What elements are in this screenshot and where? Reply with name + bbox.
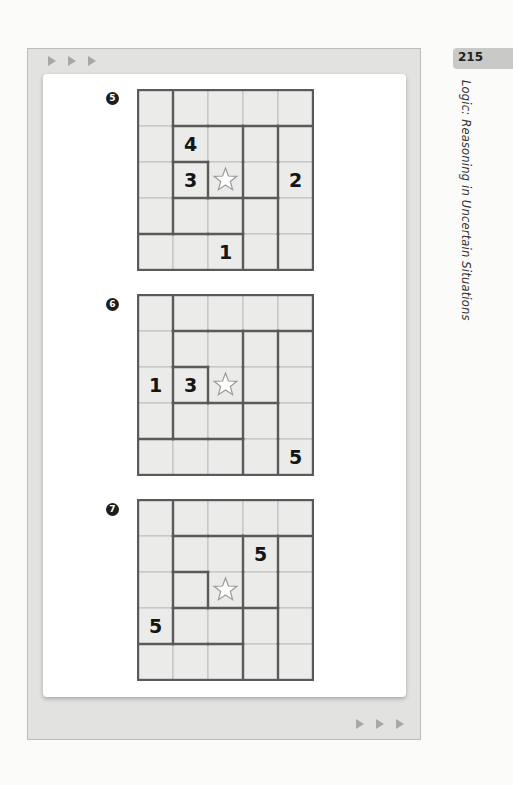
puzzle-number-badge: 7	[106, 503, 119, 516]
grid-cell[interactable]	[138, 90, 173, 126]
grid-cell[interactable]	[173, 234, 208, 270]
grid-cell[interactable]	[173, 403, 208, 439]
grid-cell[interactable]	[278, 403, 313, 439]
clue-number: 5	[149, 615, 162, 637]
grid-cell[interactable]	[208, 331, 243, 367]
grid-cell[interactable]	[243, 295, 278, 331]
grid-cell[interactable]	[243, 234, 278, 270]
grid-cell[interactable]	[278, 608, 313, 644]
grid-cell[interactable]	[243, 403, 278, 439]
grid-cell[interactable]	[243, 608, 278, 644]
arrow-right-icon	[376, 719, 384, 729]
grid-svg: 55	[137, 499, 314, 681]
grid-cell[interactable]	[243, 572, 278, 608]
bottom-arrows	[356, 719, 404, 729]
page-number: 215	[458, 50, 483, 64]
top-arrows	[48, 56, 96, 66]
grid-cell[interactable]	[138, 234, 173, 270]
grid-cell[interactable]	[138, 162, 173, 198]
grid-cell[interactable]	[173, 536, 208, 572]
grid-cell[interactable]	[138, 439, 173, 475]
puzzle-grid: 4321	[137, 89, 312, 269]
grid-cell[interactable]	[278, 90, 313, 126]
grid-cell[interactable]	[278, 644, 313, 680]
arrow-right-icon	[396, 719, 404, 729]
clue-number: 1	[219, 241, 232, 263]
grid-cell[interactable]	[138, 198, 173, 234]
clue-number: 1	[149, 374, 162, 396]
grid-cell[interactable]	[278, 331, 313, 367]
grid-cell[interactable]	[243, 162, 278, 198]
grid-cell[interactable]	[208, 500, 243, 536]
puzzle-number-badge: 5	[106, 92, 119, 105]
grid-svg: 135	[137, 294, 314, 476]
grid-cell[interactable]	[173, 608, 208, 644]
grid-cell[interactable]	[278, 367, 313, 403]
grid-cell[interactable]	[278, 234, 313, 270]
grid-cell[interactable]	[138, 403, 173, 439]
grid-cell[interactable]	[173, 572, 208, 608]
clue-number: 3	[184, 374, 197, 396]
grid-cell[interactable]	[278, 536, 313, 572]
grid-cell[interactable]	[208, 90, 243, 126]
grid-cell[interactable]	[138, 295, 173, 331]
grid-cell[interactable]	[173, 500, 208, 536]
clue-number: 5	[289, 446, 302, 468]
grid-cell[interactable]	[138, 331, 173, 367]
puzzle-grid: 55	[137, 499, 312, 679]
clue-number: 4	[184, 133, 197, 155]
grid-cell[interactable]	[138, 572, 173, 608]
arrow-right-icon	[48, 56, 56, 66]
grid-cell[interactable]	[278, 500, 313, 536]
grid-cell[interactable]	[243, 198, 278, 234]
grid-cell[interactable]	[208, 295, 243, 331]
grid-cell[interactable]	[243, 331, 278, 367]
running-title: Logic: Reasoning in Uncertain Situations	[453, 80, 473, 321]
grid-cell[interactable]	[243, 126, 278, 162]
grid-cell[interactable]	[208, 126, 243, 162]
grid-cell[interactable]	[173, 295, 208, 331]
grid-cell[interactable]	[278, 295, 313, 331]
puzzle-grid: 135	[137, 294, 312, 474]
arrow-right-icon	[68, 56, 76, 66]
grid-cell[interactable]	[208, 536, 243, 572]
grid-cell[interactable]	[243, 90, 278, 126]
grid-cell[interactable]	[138, 536, 173, 572]
grid-cell[interactable]	[278, 572, 313, 608]
arrow-right-icon	[356, 719, 364, 729]
arrow-right-icon	[88, 56, 96, 66]
clue-number: 3	[184, 169, 197, 191]
grid-cell[interactable]	[138, 644, 173, 680]
clue-number: 2	[289, 169, 302, 191]
grid-cell[interactable]	[243, 500, 278, 536]
grid-cell[interactable]	[243, 644, 278, 680]
grid-cell[interactable]	[208, 403, 243, 439]
grid-cell[interactable]	[208, 608, 243, 644]
grid-cell[interactable]	[208, 439, 243, 475]
grid-cell[interactable]	[173, 331, 208, 367]
grid-cell[interactable]	[173, 644, 208, 680]
grid-cell[interactable]	[278, 126, 313, 162]
grid-svg: 4321	[137, 89, 314, 271]
grid-cell[interactable]	[138, 126, 173, 162]
grid-cell[interactable]	[138, 500, 173, 536]
puzzle-number-badge: 6	[106, 298, 119, 311]
grid-cell[interactable]	[173, 198, 208, 234]
grid-cell[interactable]	[173, 439, 208, 475]
grid-cell[interactable]	[173, 90, 208, 126]
grid-cell[interactable]	[243, 367, 278, 403]
grid-cell[interactable]	[243, 439, 278, 475]
grid-cell[interactable]	[278, 198, 313, 234]
grid-cell[interactable]	[208, 198, 243, 234]
grid-cell[interactable]	[208, 644, 243, 680]
clue-number: 5	[254, 543, 267, 565]
